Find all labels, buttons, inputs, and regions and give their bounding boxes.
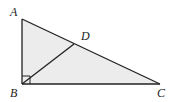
- label-c: C: [157, 86, 166, 100]
- label-b: B: [10, 86, 18, 100]
- label-a: A: [9, 5, 18, 19]
- geometry-diagram: A B C D: [0, 0, 175, 102]
- label-d: D: [80, 29, 90, 43]
